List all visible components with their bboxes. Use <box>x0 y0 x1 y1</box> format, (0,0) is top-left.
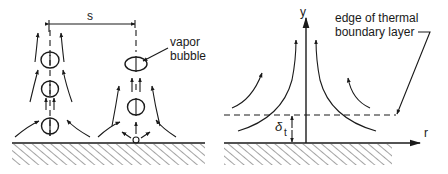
plume-streamline <box>316 40 376 131</box>
annotation-line-2: boundary layer <box>335 25 414 39</box>
nucleating-bubble <box>133 137 139 143</box>
bubble-column-left <box>15 30 90 140</box>
delta-subscript: t <box>284 127 287 138</box>
boiling-diagram: s <box>0 0 448 174</box>
bubble-column-right <box>98 30 176 143</box>
boundary-layer-annotation: edge of thermal boundary layer <box>335 11 430 114</box>
entrainment-arrow <box>232 73 262 108</box>
y-axis-label: y <box>300 5 306 19</box>
left-panel: s <box>12 9 206 165</box>
annotation-line-1: edge of thermal <box>335 11 418 25</box>
delta-t-dimension: δ t <box>275 116 292 142</box>
spacing-label: s <box>87 9 93 23</box>
entrainment-arrow <box>348 78 370 108</box>
bubble-label: bubble <box>170 49 206 63</box>
wall-hatching-right <box>224 144 392 165</box>
plume-streamline <box>238 40 296 131</box>
vapor-label: vapor <box>170 35 200 49</box>
r-axis-label: r <box>424 126 428 140</box>
wall-hatching-left <box>12 144 205 165</box>
spacing-dimension: s <box>49 9 135 32</box>
delta-symbol: δ <box>275 119 283 134</box>
vapor-bubble-annotation: vapor bubble <box>143 35 206 63</box>
right-panel: r y δ t edge of thermal boundary layer <box>224 5 430 165</box>
